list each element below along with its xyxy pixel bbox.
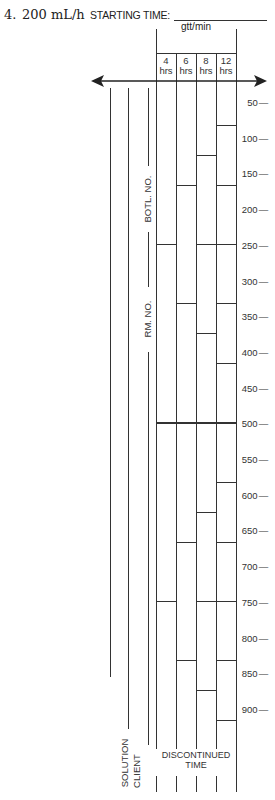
gtt-min-label: gtt/min [156, 21, 236, 32]
volume-tick: 750— [242, 596, 268, 607]
tick-label: 700 [242, 561, 258, 572]
solution-label: SOLUTION [119, 733, 131, 793]
box-right-border [236, 29, 237, 749]
volume-tick: 450— [242, 382, 268, 393]
tick-label: 350 [242, 311, 258, 322]
time-mark [176, 542, 197, 543]
tick-label: 50 [247, 97, 258, 108]
tick-label: 550 [242, 454, 258, 465]
tick-label: 800 [242, 632, 258, 643]
time-mark [196, 512, 217, 513]
time-mark [216, 244, 237, 245]
time-mark [216, 601, 237, 602]
tick-mark: — [259, 311, 269, 322]
time-mark [216, 482, 237, 483]
tick-label: 200 [242, 204, 258, 215]
time-mark [176, 185, 197, 186]
volume-tick: 250— [242, 239, 268, 250]
tick-label: 750 [242, 596, 258, 607]
label-line-client-a [148, 88, 149, 166]
volume-tick: 50— [247, 97, 268, 108]
time-mark [216, 303, 237, 304]
time-mark [156, 422, 177, 423]
volume-tick: 650— [242, 525, 268, 536]
volume-tick: 550— [242, 454, 268, 465]
volume-tick: 150— [242, 168, 268, 179]
column-divider [196, 53, 197, 749]
column-stub [236, 749, 237, 792]
discontinued-text: DISCONTINUED [162, 750, 231, 760]
label-line-client-c [148, 352, 149, 745]
tick-label: 300 [242, 275, 258, 286]
tick-mark: — [259, 346, 269, 357]
time-mark [216, 185, 237, 186]
time-mark [176, 660, 197, 661]
volume-tick: 850— [242, 668, 268, 679]
time-mark [156, 601, 177, 602]
time-mark [216, 125, 237, 126]
time-mark [196, 690, 217, 691]
volume-tick: 200— [242, 204, 268, 215]
volume-tick: 500— [242, 418, 268, 429]
column-stub [196, 776, 197, 792]
tick-mark: — [259, 204, 269, 215]
tick-mark: — [259, 454, 269, 465]
tick-mark: — [259, 168, 269, 179]
tick-mark: — [259, 382, 269, 393]
tick-label: 150 [242, 168, 258, 179]
room-number-label: RM. NO. [142, 289, 154, 349]
volume-tick: 350— [242, 311, 268, 322]
label-line-solution [128, 88, 129, 729]
time-mark [216, 422, 237, 423]
time-text: TIME [185, 760, 207, 770]
volume-tick: 600— [242, 489, 268, 500]
tick-label: 650 [242, 525, 258, 536]
bottle-number-label: BOTL. NO. [142, 169, 154, 229]
time-mark [216, 660, 237, 661]
time-mark [216, 542, 237, 543]
infusion-rate: 200 mL/h [22, 7, 85, 22]
time-mark [196, 333, 217, 334]
starting-time-label: STARTING TIME: [90, 9, 170, 21]
double-arrow-icon [88, 74, 270, 88]
time-mark [216, 720, 237, 721]
column-stub [156, 776, 157, 792]
tick-mark: — [259, 596, 269, 607]
box-left-border [156, 29, 157, 749]
tick-label: 400 [242, 346, 258, 357]
tick-mark: — [259, 561, 269, 572]
volume-tick: 300— [242, 275, 268, 286]
volume-tick: 700— [242, 561, 268, 572]
time-mark [196, 155, 217, 156]
tick-mark: — [259, 703, 269, 714]
tick-label: 450 [242, 382, 258, 393]
tick-mark: — [259, 239, 269, 250]
time-mark [196, 422, 217, 423]
time-mark [156, 244, 177, 245]
label-line-1 [110, 88, 111, 677]
tick-mark: — [259, 632, 269, 643]
problem-number: 4. [4, 7, 16, 22]
tick-mark: — [259, 525, 269, 536]
volume-tick: 100— [242, 132, 268, 143]
tick-mark: — [259, 489, 269, 500]
tick-label: 850 [242, 668, 258, 679]
time-mark [196, 601, 217, 602]
tick-mark: — [259, 132, 269, 143]
time-mark [176, 303, 197, 304]
tick-mark: — [259, 275, 269, 286]
column-stub [176, 776, 177, 792]
tick-mark: — [259, 418, 269, 429]
column-divider [176, 53, 177, 749]
tick-label: 900 [242, 703, 258, 714]
tick-mark: — [259, 97, 269, 108]
volume-tick: 400— [242, 346, 268, 357]
tick-label: 100 [242, 132, 258, 143]
time-mark [196, 244, 217, 245]
column-stub [216, 776, 217, 792]
tick-mark: — [259, 668, 269, 679]
tick-label: 500 [242, 418, 258, 429]
volume-tick: 900— [242, 703, 268, 714]
time-mark [176, 422, 197, 423]
client-label: CLIENT [131, 751, 143, 791]
